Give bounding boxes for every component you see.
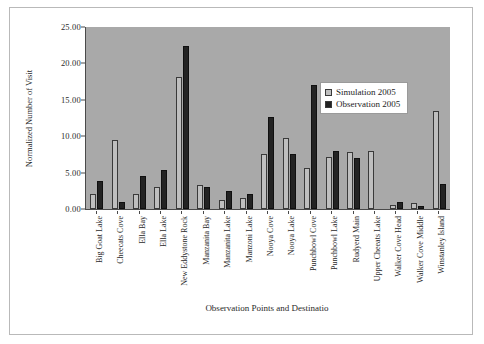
x-axis-label-slot: Manzanita Lake bbox=[213, 211, 234, 297]
x-axis-label-slot: New Eddystone Rock bbox=[171, 211, 192, 297]
y-axis: 0.005.0010.0015.0020.0025.00 bbox=[10, 27, 85, 210]
bar-group bbox=[407, 27, 428, 209]
x-axis-label-slot: Winstanley Island bbox=[428, 211, 449, 297]
bar-simulation bbox=[433, 111, 439, 209]
bar-simulation bbox=[133, 194, 139, 209]
x-axis-tick-mark bbox=[417, 211, 418, 214]
bar-group bbox=[386, 27, 407, 209]
bar-simulation bbox=[240, 198, 246, 209]
x-axis-tick-label: Big Goat Lake bbox=[96, 216, 104, 263]
bar-observation bbox=[247, 194, 253, 209]
bar-group bbox=[150, 27, 171, 209]
bar-group bbox=[172, 27, 193, 209]
x-axis-tick-mark bbox=[96, 211, 97, 214]
y-axis-tick-label: 10.00 bbox=[61, 131, 81, 141]
x-axis-tick-label: Nooya Cove bbox=[267, 216, 275, 256]
x-axis-tick-mark bbox=[224, 211, 225, 214]
x-axis-tick-label: Ella Lake bbox=[160, 216, 168, 247]
x-axis-tick-label: Punchbowl Lake bbox=[331, 216, 339, 270]
legend-swatch-simulation bbox=[325, 89, 332, 96]
x-axis-tick-mark bbox=[203, 211, 204, 214]
x-axis-tick-label: Punchbowl Cove bbox=[310, 216, 318, 271]
x-axis-tick-label: Ella Bay bbox=[139, 216, 147, 244]
x-axis-tick-mark bbox=[267, 211, 268, 214]
bar-simulation bbox=[326, 157, 332, 209]
x-axis-tick-mark bbox=[139, 211, 140, 214]
x-axis-label-slot: Punchbowl Cove bbox=[299, 211, 320, 297]
x-axis-label-slot: Ella Lake bbox=[149, 211, 170, 297]
bar-group bbox=[86, 27, 107, 209]
bar-simulation bbox=[112, 140, 118, 209]
x-axis-tick-mark bbox=[246, 211, 247, 214]
bar-observation bbox=[418, 206, 424, 209]
x-axis-tick-label: Rudyerd Main bbox=[353, 216, 361, 262]
bar-observation bbox=[226, 191, 232, 209]
x-axis-label-slot: Upper Cheeats Lake bbox=[363, 211, 384, 297]
bar-group bbox=[236, 27, 257, 209]
x-axis-label-slot: Big Goat Lake bbox=[85, 211, 106, 297]
x-axis-tick-label: Upper Cheeats Lake bbox=[374, 216, 382, 281]
bar-group bbox=[429, 27, 450, 209]
bar-group bbox=[129, 27, 150, 209]
x-axis-label-slot: Walker Cove Middle bbox=[406, 211, 427, 297]
bar-simulation bbox=[90, 194, 96, 209]
y-axis-tick-label: 5.00 bbox=[65, 168, 81, 178]
legend-label-simulation: Simulation 2005 bbox=[336, 86, 396, 98]
bar-group bbox=[257, 27, 278, 209]
y-axis-tick-label: 15.00 bbox=[61, 95, 81, 105]
bar-observation bbox=[311, 85, 317, 209]
x-axis-label-slot: Nooya Cove bbox=[256, 211, 277, 297]
bar-simulation bbox=[219, 200, 225, 209]
x-axis-title: Observation Points and Destinatio bbox=[85, 303, 449, 313]
bar-observation bbox=[440, 184, 446, 209]
y-axis-tick-label: 20.00 bbox=[61, 58, 81, 68]
chart-figure: Normalized Number of Visit 0.005.0010.00… bbox=[9, 7, 473, 335]
bar-simulation bbox=[154, 187, 160, 209]
bar-observation bbox=[333, 151, 339, 209]
legend-label-observation: Observation 2005 bbox=[336, 98, 400, 110]
x-axis-tick-label: Walker Cove Middle bbox=[417, 216, 425, 283]
bar-observation bbox=[290, 154, 296, 209]
bar-observation bbox=[268, 117, 274, 209]
x-axis-tick-mark bbox=[310, 211, 311, 214]
x-axis-tick-mark bbox=[438, 211, 439, 214]
bar-groups bbox=[86, 27, 450, 209]
x-axis-label-slot: Cheecats Cove bbox=[106, 211, 127, 297]
bar-simulation bbox=[176, 77, 182, 209]
bar-simulation bbox=[411, 203, 417, 209]
bar-observation bbox=[140, 176, 146, 209]
x-axis-label-slot: Rudyerd Main bbox=[342, 211, 363, 297]
x-axis-tick-mark bbox=[395, 211, 396, 214]
legend-item-observation: Observation 2005 bbox=[325, 98, 400, 110]
x-axis-label-slot: Manzanita Bay bbox=[192, 211, 213, 297]
x-axis-tick-label: Winstanley Island bbox=[438, 216, 446, 274]
x-axis-tick-label: Cheecats Cove bbox=[117, 216, 125, 264]
bar-observation bbox=[397, 202, 403, 209]
bar-simulation bbox=[368, 151, 374, 209]
x-axis-tick-mark bbox=[288, 211, 289, 214]
x-axis-tick-label: Manzanita Bay bbox=[203, 216, 211, 265]
bar-simulation bbox=[261, 154, 267, 209]
bar-group bbox=[193, 27, 214, 209]
x-axis-label-slot: Manzoni Lake bbox=[235, 211, 256, 297]
y-axis-tick-label: 25.00 bbox=[61, 22, 81, 32]
x-axis-tick-mark bbox=[160, 211, 161, 214]
legend-item-simulation: Simulation 2005 bbox=[325, 86, 400, 98]
x-axis-label-slot: Nooya Lake bbox=[278, 211, 299, 297]
bar-simulation bbox=[283, 138, 289, 209]
bar-observation bbox=[354, 158, 360, 209]
chart-legend: Simulation 2005 Observation 2005 bbox=[320, 82, 408, 114]
x-axis-labels: Big Goat LakeCheecats CoveElla BayElla L… bbox=[85, 211, 449, 297]
bar-observation bbox=[97, 181, 103, 209]
bar-group bbox=[279, 27, 300, 209]
bar-group bbox=[107, 27, 128, 209]
x-axis-tick-mark bbox=[331, 211, 332, 214]
bar-group bbox=[300, 27, 321, 209]
bar-simulation bbox=[390, 205, 396, 209]
x-axis-label-slot: Walker Cove Head bbox=[385, 211, 406, 297]
bar-simulation bbox=[347, 152, 353, 209]
x-axis-tick-label: Manzoni Lake bbox=[246, 216, 254, 262]
x-axis-label-slot: Punchbowl Lake bbox=[320, 211, 341, 297]
x-axis-label-slot: Ella Bay bbox=[128, 211, 149, 297]
legend-swatch-observation bbox=[325, 101, 332, 108]
